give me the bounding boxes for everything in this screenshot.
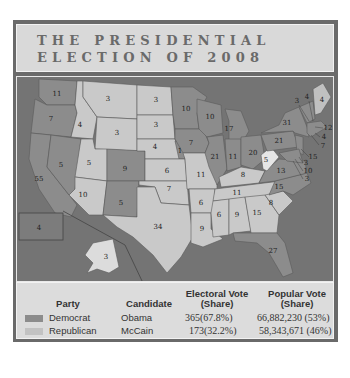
svg-text:10: 10	[304, 167, 313, 175]
title-box: THE PRESIDENTIAL ELECTION OF 2008	[16, 24, 334, 72]
row-republican-electoral: 173(32.2%)	[189, 325, 237, 336]
svg-text:21: 21	[211, 153, 220, 161]
svg-text:7: 7	[321, 142, 325, 150]
svg-text:5: 5	[264, 156, 268, 164]
svg-text:3: 3	[305, 175, 309, 183]
svg-text:3: 3	[154, 121, 158, 129]
row-republican-popular: 58,343,671 (46%)	[259, 325, 332, 336]
election-map: 11 7 55 5 4 3 3 5 10 9 5 3 3 4 1 6 7 34 …	[16, 76, 334, 282]
svg-text:34: 34	[154, 223, 163, 231]
svg-text:7: 7	[49, 115, 53, 123]
legend: Party Candidate Electoral Vote (Share) P…	[16, 282, 334, 339]
svg-text:10: 10	[206, 113, 215, 121]
svg-text:5: 5	[119, 199, 123, 207]
svg-text:4: 4	[305, 93, 310, 101]
svg-text:15: 15	[275, 183, 284, 191]
svg-text:4: 4	[322, 133, 327, 141]
svg-text:7: 7	[167, 185, 171, 193]
row-democrat-candidate: Obama	[121, 312, 152, 323]
us-map-graphic: 11 7 55 5 4 3 3 5 10 9 5 3 3 4 1 6 7 34 …	[17, 77, 334, 282]
svg-text:11: 11	[233, 189, 242, 197]
row-republican-party: Republican	[49, 325, 97, 336]
svg-text:4: 4	[320, 96, 325, 104]
state-fl	[233, 233, 293, 277]
svg-text:11: 11	[53, 90, 62, 98]
popular-header-line2: (Share)	[262, 299, 332, 309]
svg-text:8: 8	[241, 171, 245, 179]
svg-text:11: 11	[197, 171, 206, 179]
svg-text:3: 3	[304, 159, 308, 167]
svg-text:6: 6	[217, 211, 222, 219]
svg-text:11: 11	[229, 153, 238, 161]
svg-text:9: 9	[123, 165, 127, 173]
svg-text:4: 4	[78, 121, 83, 129]
svg-text:5: 5	[87, 159, 91, 167]
title-line-1: THE PRESIDENTIAL	[37, 33, 271, 48]
svg-text:8: 8	[269, 199, 273, 207]
row-democrat-electoral: 365(67.8%)	[185, 312, 233, 323]
svg-text:31: 31	[283, 119, 292, 127]
svg-text:15: 15	[309, 153, 318, 161]
legend-header-popular: Popular Vote (Share)	[262, 289, 332, 309]
row-democrat-party: Democrat	[49, 312, 90, 323]
svg-text:20: 20	[249, 149, 258, 157]
svg-text:4: 4	[153, 143, 158, 151]
svg-text:12: 12	[324, 124, 333, 132]
svg-text:10: 10	[79, 191, 88, 199]
row-republican-candidate: McCain	[121, 325, 153, 336]
svg-text:6: 6	[165, 167, 170, 175]
svg-text:21: 21	[275, 137, 284, 145]
svg-text:1: 1	[178, 147, 182, 155]
svg-text:9: 9	[235, 211, 239, 219]
svg-text:27: 27	[269, 247, 278, 255]
state-ak	[85, 239, 119, 273]
svg-text:7: 7	[189, 139, 193, 147]
svg-text:3: 3	[104, 253, 108, 261]
legend-header-electoral: Electoral Vote (Share)	[182, 289, 252, 309]
legend-header-candidate: Candidate	[119, 299, 179, 309]
svg-text:17: 17	[225, 125, 234, 133]
svg-text:3: 3	[154, 96, 158, 104]
svg-text:3: 3	[295, 97, 299, 105]
svg-text:4: 4	[37, 224, 42, 232]
svg-text:3: 3	[115, 129, 119, 137]
svg-text:55: 55	[35, 175, 44, 183]
svg-text:5: 5	[59, 161, 63, 169]
svg-text:13: 13	[277, 167, 286, 175]
electoral-header-line2: (Share)	[182, 299, 252, 309]
svg-text:15: 15	[253, 209, 262, 217]
svg-text:9: 9	[200, 225, 204, 233]
row-democrat-popular: 66,882,230 (53%)	[257, 312, 330, 323]
title-line-2: ELECTION OF 2008	[37, 50, 264, 65]
republican-swatch	[25, 328, 43, 335]
svg-text:3: 3	[106, 95, 110, 103]
legend-header-party: Party	[48, 299, 88, 309]
svg-text:6: 6	[199, 199, 204, 207]
democrat-swatch	[25, 315, 43, 322]
svg-text:10: 10	[182, 105, 191, 113]
